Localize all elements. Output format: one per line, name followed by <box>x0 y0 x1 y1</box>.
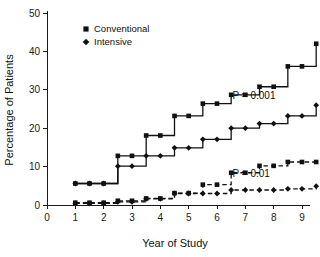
data-point-diamond <box>186 145 192 151</box>
data-point-square <box>201 182 206 187</box>
data-point-square <box>186 114 191 119</box>
data-point-diamond <box>228 187 234 193</box>
data-point-diamond <box>143 153 149 159</box>
data-point-diamond <box>214 136 220 142</box>
y-tick-label: 10 <box>29 161 41 172</box>
data-point-diamond <box>257 187 263 193</box>
data-point-diamond <box>271 121 277 127</box>
series-line-0 <box>75 44 316 184</box>
data-point-square <box>286 64 291 69</box>
data-point-diamond <box>214 191 220 197</box>
x-tick-label: 4 <box>158 212 164 223</box>
data-point-square <box>300 160 305 165</box>
p-value-annotation-1: P = 0.01 <box>233 168 271 179</box>
x-tick-label: 3 <box>129 212 135 223</box>
x-tick-label: 6 <box>214 212 220 223</box>
data-point-diamond <box>299 186 305 192</box>
x-tick-label: 8 <box>271 212 277 223</box>
data-point-diamond <box>313 102 319 108</box>
x-tick-label: 1 <box>73 212 79 223</box>
series-line-1 <box>75 105 316 183</box>
x-axis-title: Year of Study <box>142 237 208 249</box>
data-point-diamond <box>172 145 178 151</box>
x-tick-label: 2 <box>101 212 107 223</box>
data-point-diamond <box>285 186 291 192</box>
y-tick-label: 0 <box>34 200 40 211</box>
y-tick-label: 30 <box>29 84 41 95</box>
cumulative-incidence-chart: 01020304050 0123456789 ConventionalInten… <box>0 0 320 257</box>
series-layer <box>75 44 316 204</box>
series-line-2 <box>75 162 316 203</box>
x-tick-label: 0 <box>44 212 50 223</box>
data-point-square <box>314 41 319 46</box>
data-point-diamond <box>242 187 248 193</box>
data-point-square <box>116 154 121 159</box>
data-point-diamond <box>129 163 135 169</box>
chart-legend: ConventionalIntensive <box>83 23 150 47</box>
data-point-diamond <box>313 183 319 189</box>
data-point-diamond <box>299 113 305 119</box>
data-point-square <box>130 154 135 159</box>
data-point-diamond <box>285 113 291 119</box>
data-point-square <box>314 160 319 165</box>
data-point-diamond <box>115 163 121 169</box>
series-line-3 <box>75 186 316 203</box>
y-axis-title: Percentage of Patients <box>3 54 15 166</box>
x-tick-label: 5 <box>186 212 192 223</box>
chart-container: 01020304050 0123456789 ConventionalInten… <box>0 0 320 257</box>
x-axis: 0123456789 <box>44 205 310 223</box>
annotations-layer: P = 0.001P = 0.01 <box>233 90 276 179</box>
x-tick-label: 9 <box>299 212 305 223</box>
y-tick-label: 20 <box>29 123 41 134</box>
data-point-square <box>257 84 262 89</box>
data-point-square <box>158 133 163 138</box>
data-point-square <box>271 164 276 169</box>
y-axis: 01020304050 <box>29 8 47 211</box>
data-point-square <box>271 84 276 89</box>
data-point-diamond <box>242 125 248 131</box>
data-point-diamond <box>200 191 206 197</box>
data-point-diamond <box>271 187 277 193</box>
p-value-annotation-0: P = 0.001 <box>233 90 276 101</box>
x-tick-label: 7 <box>243 212 249 223</box>
data-point-square <box>215 101 220 106</box>
legend-label-square: Conventional <box>94 23 149 34</box>
legend-label-diamond: Intensive <box>94 36 132 47</box>
data-point-square <box>215 182 220 187</box>
data-point-square <box>144 133 149 138</box>
data-point-diamond <box>83 39 90 46</box>
data-point-diamond <box>157 153 163 159</box>
data-point-square <box>172 114 177 119</box>
data-point-square <box>300 64 305 69</box>
data-point-square <box>83 26 88 31</box>
data-point-diamond <box>257 121 263 127</box>
data-point-diamond <box>228 125 234 131</box>
y-tick-label: 40 <box>29 46 41 57</box>
data-point-diamond <box>200 136 206 142</box>
data-point-square <box>201 101 206 106</box>
y-tick-label: 50 <box>29 8 41 19</box>
data-point-square <box>286 160 291 165</box>
